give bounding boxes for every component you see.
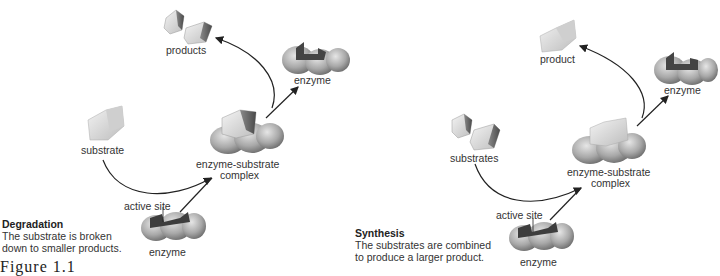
substrates-binding-arrow [475, 164, 581, 201]
enzyme-binding-right-arrow [550, 188, 581, 220]
enzyme-top-label: enzyme [294, 74, 331, 86]
figure-label: Figure 1.1 [0, 258, 76, 276]
synthesis-title: Synthesis [355, 227, 405, 239]
enzyme-binding-arrow [180, 178, 212, 212]
substrate-binding-arrow [103, 160, 211, 194]
enzyme-substrate-complex-icon [210, 110, 284, 154]
release-enzyme-arrow [266, 87, 298, 118]
enzyme-top-right-label: enzyme [664, 84, 701, 96]
substrate-molecule-icon [88, 106, 124, 140]
complex-label-line2: complex [220, 169, 259, 181]
enzyme-top-icon [282, 42, 350, 75]
substrates-molecule-icon [452, 114, 500, 150]
enzyme-top-right-icon [654, 52, 718, 85]
degradation-text-line1: The substrate is broken [2, 230, 202, 242]
products-molecule-icon [164, 10, 212, 44]
release-enzyme-right-arrow [637, 96, 668, 126]
degradation-text-line2: down to smaller products. [2, 242, 202, 254]
enzyme-substrate-complex-right-icon [572, 118, 646, 164]
active-site-label: active site [124, 200, 171, 212]
synthesis-text-line1: The substrates are combined [355, 239, 555, 251]
product-molecule-icon [540, 20, 576, 52]
active-site-right-label: active site [496, 209, 543, 221]
products-label: products [166, 44, 206, 56]
product-label: product [540, 53, 575, 65]
degradation-title: Degradation [2, 218, 63, 230]
complex-right-label-line2: complex [591, 177, 630, 189]
synthesis-text-line2: to produce a larger product. [355, 251, 555, 263]
substrate-label: substrate [81, 144, 124, 156]
release-products-arrow [216, 38, 274, 108]
release-product-arrow [580, 46, 644, 118]
substrates-label: substrates [450, 152, 498, 164]
